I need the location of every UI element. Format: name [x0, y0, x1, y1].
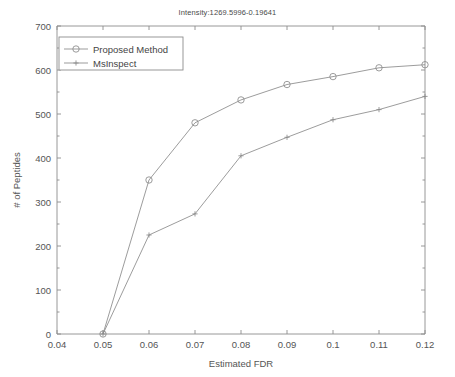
- series-line: [103, 96, 425, 334]
- y-tick-label: 0: [46, 329, 51, 340]
- legend-label: Proposed Method: [93, 44, 168, 55]
- x-axis-ticks: [57, 26, 425, 334]
- x-tick-label: 0.05: [94, 339, 113, 350]
- legend-label: MsInspect: [93, 58, 137, 69]
- y-tick-label: 200: [35, 241, 51, 252]
- y-axis-tick-labels: 0100200300400500600700: [35, 21, 51, 340]
- y-tick-label: 500: [35, 109, 51, 120]
- x-tick-label: 0.06: [140, 339, 159, 350]
- x-axis-title: Estimated FDR: [209, 358, 274, 369]
- x-tick-label: 0.07: [186, 339, 205, 350]
- figure-container: Intensity:1269.5996-0.19641 0.040.050.06…: [0, 0, 455, 377]
- series-2: [100, 94, 427, 337]
- line-chart-plot: 0.040.050.060.070.080.090.10.110.12 0100…: [0, 0, 455, 377]
- series-layer: [100, 62, 428, 338]
- x-tick-label: 0.09: [278, 339, 297, 350]
- y-axis-ticks: [57, 26, 425, 334]
- x-tick-label: 0.12: [416, 339, 435, 350]
- y-tick-label: 400: [35, 153, 51, 164]
- series-1: [100, 62, 428, 338]
- series-line: [103, 65, 425, 334]
- y-tick-label: 300: [35, 197, 51, 208]
- chart-legend[interactable]: Proposed MethodMsInspect: [59, 37, 183, 70]
- x-tick-label: 0.08: [232, 339, 251, 350]
- y-tick-label: 600: [35, 65, 51, 76]
- x-tick-label: 0.11: [370, 339, 388, 350]
- x-tick-label: 0.1: [326, 339, 339, 350]
- y-tick-label: 100: [35, 285, 51, 296]
- x-axis-tick-labels: 0.040.050.060.070.080.090.10.110.12: [48, 339, 435, 350]
- y-tick-label: 700: [35, 21, 51, 32]
- axis-frame: [57, 26, 425, 334]
- y-axis-title: # of Peptides: [11, 152, 22, 208]
- x-tick-label: 0.04: [48, 339, 67, 350]
